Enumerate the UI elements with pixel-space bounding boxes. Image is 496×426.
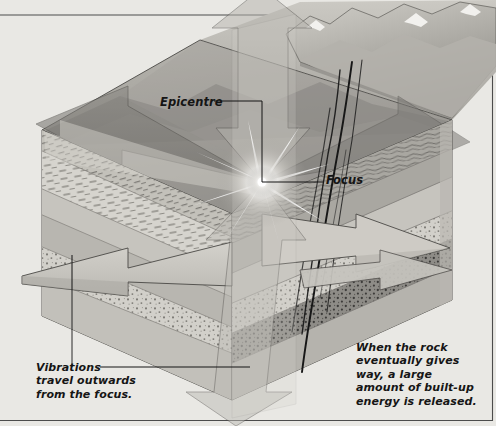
label-vibrations-caption: Vibrations travel outwards from the focu… <box>36 361 136 401</box>
label-epicentre: Epicentre <box>160 95 223 109</box>
illustration-canvas: Epicentre Focus Vibrations travel outwar… <box>0 0 496 426</box>
label-energy-caption: When the rock eventually gives way, a la… <box>356 341 477 408</box>
label-focus: Focus <box>326 173 363 187</box>
